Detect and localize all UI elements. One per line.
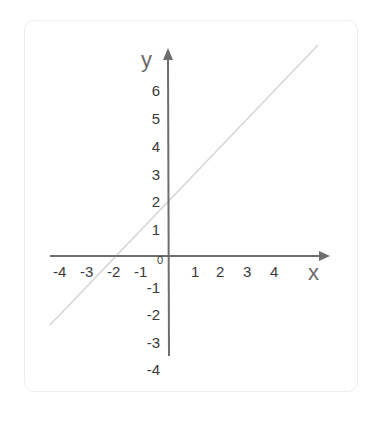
y-tick-label: -4: [147, 361, 160, 378]
x-tick-label: -2: [107, 263, 120, 280]
x-tick-label: -1: [134, 263, 147, 280]
x-axis-arrow-icon: [319, 251, 330, 261]
y-tick-label: 3: [152, 166, 160, 183]
y-tick-label: -1: [147, 279, 160, 296]
x-tick-label: -3: [80, 263, 93, 280]
function-line: [50, 45, 318, 325]
y-tick-label: -2: [147, 306, 160, 323]
x-tick-label: -4: [53, 263, 66, 280]
x-axis-label: x: [308, 260, 319, 285]
y-tick-label: 2: [152, 193, 160, 210]
origin-label: 0: [157, 254, 163, 266]
y-axis-label: y: [141, 47, 152, 72]
x-axis: [50, 251, 330, 261]
y-tick-label: -3: [147, 334, 160, 351]
y-tick-label: 6: [152, 82, 160, 99]
x-tick-labels: -4 -3 -2 -1 1 2 3 4: [53, 263, 278, 280]
x-tick-label: 2: [216, 263, 224, 280]
y-axis: [163, 48, 173, 356]
x-tick-label: 3: [243, 263, 251, 280]
y-tick-label: 5: [152, 110, 160, 127]
x-tick-label: 1: [191, 263, 199, 280]
y-axis-arrow-icon: [163, 48, 173, 60]
y-tick-labels: 6 5 4 3 2 1 -1 -2 -3 -4: [147, 82, 160, 378]
y-tick-label: 4: [152, 138, 160, 155]
x-tick-label: 4: [270, 263, 278, 280]
y-tick-label: 1: [152, 221, 160, 238]
coordinate-plane: y x 0 -4 -3 -2 -1 1 2 3 4 6 5 4 3 2 1 -1…: [0, 0, 376, 424]
